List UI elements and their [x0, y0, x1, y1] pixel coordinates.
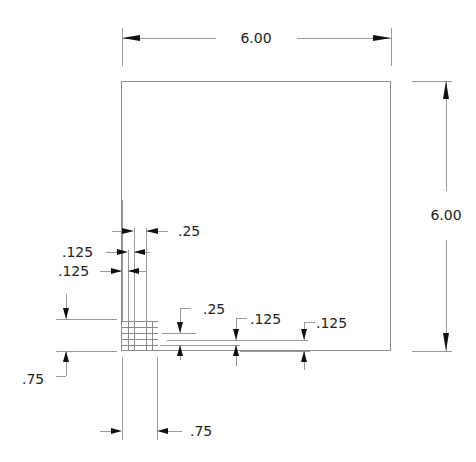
dim-label-height: 6.00 [430, 207, 461, 223]
corner-lattice [122, 310, 158, 350]
dim-overall-height: 6.00 [412, 81, 462, 351]
dim-notch-x1: .125 [62, 244, 150, 260]
arrow-down-icon [443, 333, 449, 351]
dim-label-offset-left: .75 [22, 371, 44, 387]
arrow-up-icon [443, 81, 449, 99]
dim-label-x1: .125 [62, 244, 93, 260]
dim-label-y2: .125 [316, 315, 347, 331]
technical-drawing: 6.00 6.00 .25 .125 .125 [0, 0, 476, 462]
dim-label-width: 6.00 [240, 30, 271, 46]
arrow-left-icon [122, 35, 140, 41]
dim-notch-y1: .125 [167, 311, 308, 366]
arrow-up-icon [63, 351, 69, 362]
dim-label-x2: .125 [58, 263, 89, 279]
dim-offset-bottom: .75 [100, 357, 212, 440]
dim-label-gap-right: .25 [203, 301, 225, 317]
dim-notch-gap-right: .25 [160, 301, 240, 360]
arrow-left-icon [157, 428, 168, 434]
dim-offset-left: .75 [22, 294, 117, 387]
dim-notch-gap-top: .25 [112, 223, 200, 239]
dim-overall-width: 6.00 [122, 28, 391, 66]
dim-label-y1: .125 [250, 311, 281, 327]
lattice-extension-lines [122, 200, 146, 321]
arrow-down-icon [63, 308, 69, 319]
arrow-right-icon [373, 35, 391, 41]
dim-label-offset-bottom: .75 [190, 423, 212, 439]
dim-notch-x2: .125 [58, 263, 146, 279]
arrow-right-icon [111, 428, 122, 434]
dim-label-gap-top: .25 [178, 223, 200, 239]
